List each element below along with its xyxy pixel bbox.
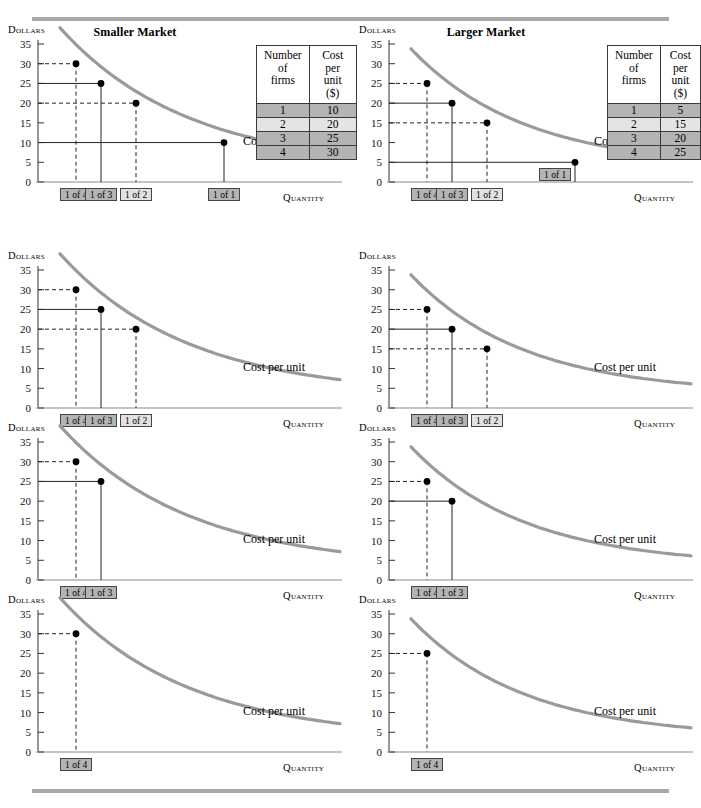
svg-text:30: 30 (20, 284, 32, 296)
chart-panel-row3-right: 35302520151050DollarsQuantityCost per un… (351, 420, 701, 598)
cell-cost-per-unit: 30 (309, 146, 356, 160)
x-axis-label: Quantity (634, 192, 675, 203)
plot-area: 35302520151050 (351, 420, 701, 598)
quantity-marker-1-of-4: 1 of 4 (60, 758, 92, 771)
svg-text:10: 10 (371, 363, 383, 375)
svg-text:15: 15 (20, 343, 32, 355)
column-header-cost-per-unit: Costperunit($) (660, 46, 700, 104)
chart-panel-row2-right: 35302520151050DollarsQuantityCost per un… (351, 248, 701, 426)
plot-area: 35302520151050 (0, 592, 350, 770)
y-axis-label: Dollars (8, 594, 45, 605)
curve-label-cost-per-unit: Cost per unit (243, 532, 305, 547)
svg-text:30: 30 (20, 58, 32, 70)
cell-cost-per-unit: 5 (660, 104, 700, 118)
svg-text:20: 20 (371, 97, 383, 109)
header-line: per (668, 62, 693, 75)
cell-number-of-firms: 2 (257, 118, 310, 132)
svg-text:15: 15 (371, 343, 383, 355)
plot-area: 35302520151050 (351, 248, 701, 426)
quantity-marker-1-of-4: 1 of 4 (411, 758, 443, 771)
svg-text:10: 10 (20, 137, 32, 149)
header-line: of (615, 62, 653, 75)
curve-label-cost-per-unit: Cost per unit (243, 704, 305, 719)
svg-text:5: 5 (26, 156, 32, 168)
svg-text:35: 35 (20, 608, 32, 620)
svg-text:0: 0 (26, 402, 32, 414)
svg-text:20: 20 (20, 323, 32, 335)
y-axis-label: Dollars (8, 24, 45, 35)
cell-cost-per-unit: 20 (660, 132, 700, 146)
cell-cost-per-unit: 10 (309, 104, 356, 118)
svg-text:20: 20 (20, 97, 32, 109)
header-spacer (615, 87, 653, 100)
svg-text:10: 10 (20, 363, 32, 375)
quantity-marker-1-of-1: 1 of 1 (539, 168, 571, 181)
svg-text:0: 0 (26, 746, 32, 758)
chart-panel-row3-left: 35302520151050DollarsQuantityCost per un… (0, 420, 350, 598)
chart-panel-row4-right: 35302520151050DollarsQuantityCost per un… (351, 592, 701, 770)
svg-text:20: 20 (371, 323, 383, 335)
header-line: per (317, 62, 349, 75)
curve-label-cost-per-unit: Cost per unit (594, 704, 656, 719)
cell-number-of-firms: 4 (257, 146, 310, 160)
curve-label-cost-per-unit: Cost per unit (243, 360, 305, 375)
y-axis-label: Dollars (8, 422, 45, 433)
svg-text:25: 25 (20, 647, 32, 659)
cell-number-of-firms: 1 (257, 104, 310, 118)
svg-text:20: 20 (371, 667, 383, 679)
svg-text:25: 25 (371, 303, 383, 315)
plot-area: 35302520151050 (0, 248, 350, 426)
header-line: Cost (317, 49, 349, 62)
svg-text:10: 10 (20, 535, 32, 547)
curve-label-cost-per-unit: Cost per unit (594, 360, 656, 375)
cell-cost-per-unit: 25 (660, 146, 700, 160)
svg-text:25: 25 (371, 475, 383, 487)
table-row: 215 (608, 118, 701, 132)
y-axis-label: Dollars (359, 594, 396, 605)
header-line: of (264, 62, 302, 75)
svg-text:10: 10 (371, 137, 383, 149)
svg-text:25: 25 (20, 77, 32, 89)
svg-text:5: 5 (377, 554, 383, 566)
table-header-row: Numberoffirms Costperunit($) (608, 46, 701, 104)
x-axis-label: Quantity (283, 762, 324, 773)
svg-text:5: 5 (26, 554, 32, 566)
quantity-marker-1-of-2: 1 of 2 (120, 188, 152, 201)
svg-text:25: 25 (371, 77, 383, 89)
quantity-marker-1-of-1: 1 of 1 (208, 188, 240, 201)
cell-number-of-firms: 2 (608, 118, 661, 132)
header-line: unit (317, 74, 349, 87)
table-header-row: Numberoffirms Costperunit($) (257, 46, 357, 104)
quantity-marker-1-of-3: 1 of 3 (436, 188, 468, 201)
x-axis-label: Quantity (634, 762, 675, 773)
svg-text:25: 25 (20, 475, 32, 487)
svg-text:35: 35 (20, 436, 32, 448)
svg-text:20: 20 (20, 667, 32, 679)
header-line: ($) (668, 87, 693, 100)
cost-table-left: Numberoffirms Costperunit($)110220325430 (256, 45, 357, 160)
svg-text:15: 15 (20, 687, 32, 699)
svg-text:20: 20 (371, 495, 383, 507)
cell-number-of-firms: 1 (608, 104, 661, 118)
cell-number-of-firms: 4 (608, 146, 661, 160)
y-axis-label: Dollars (359, 422, 396, 433)
svg-text:35: 35 (371, 264, 383, 276)
header-spacer (264, 87, 302, 100)
table-row: 320 (608, 132, 701, 146)
svg-text:0: 0 (377, 574, 383, 586)
svg-text:15: 15 (371, 117, 383, 129)
svg-text:30: 30 (371, 58, 383, 70)
table-row: 110 (257, 104, 357, 118)
svg-text:0: 0 (26, 176, 32, 188)
svg-text:0: 0 (26, 574, 32, 586)
svg-text:15: 15 (20, 515, 32, 527)
svg-text:30: 30 (371, 284, 383, 296)
svg-text:35: 35 (20, 264, 32, 276)
column-header-number-of-firms: Numberoffirms (608, 46, 661, 104)
table-row: 425 (608, 146, 701, 160)
svg-text:20: 20 (20, 495, 32, 507)
cell-cost-per-unit: 20 (309, 118, 356, 132)
table-row: 430 (257, 146, 357, 160)
svg-text:35: 35 (371, 436, 383, 448)
column-header-cost-per-unit: Costperunit($) (309, 46, 356, 104)
